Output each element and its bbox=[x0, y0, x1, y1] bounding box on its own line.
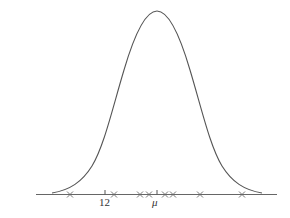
tick-label-mu: μ bbox=[151, 196, 158, 208]
normal-distribution-figure: 12 μ bbox=[0, 0, 290, 218]
normal-curve bbox=[52, 11, 262, 193]
tick-label-12: 12 bbox=[99, 196, 110, 208]
